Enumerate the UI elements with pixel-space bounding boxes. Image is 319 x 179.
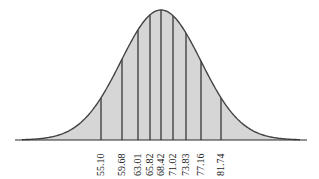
tick-label: 55.10: [96, 154, 106, 177]
tick-label: 71.02: [168, 154, 178, 177]
tick-label: 65.82: [145, 154, 155, 177]
tick-label: 77.16: [196, 154, 206, 177]
tick-label: 73.83: [181, 154, 191, 177]
tick-label: 68.42: [156, 154, 166, 177]
normal-distribution-chart: [0, 0, 319, 179]
tick-label: 81.74: [216, 154, 226, 177]
tick-label: 59.68: [117, 154, 127, 177]
tick-label: 63.01: [133, 154, 143, 177]
